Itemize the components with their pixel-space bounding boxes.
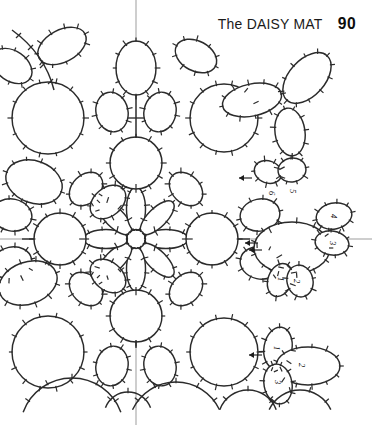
motif-ring-large — [34, 213, 86, 265]
picot-tick — [296, 217, 297, 223]
picot-tick — [127, 238, 128, 244]
edge-oval — [170, 32, 223, 79]
motif-ring-large — [110, 290, 162, 342]
step-number-label-1: 1 — [276, 277, 286, 281]
step-number-label-5: 5 — [288, 189, 298, 193]
picot-tick — [305, 167, 310, 168]
motif-ring — [140, 89, 180, 135]
picot-tick — [136, 230, 142, 231]
picot-tick — [110, 343, 111, 348]
step-number-label-1: 1 — [272, 346, 282, 350]
numbered-ring-5 — [276, 156, 308, 184]
daisy-center-ring — [127, 230, 146, 249]
pattern-page: 123456123 The DAISY MAT 90 — [0, 0, 372, 425]
edge-oval — [272, 106, 308, 158]
picot-tick — [113, 385, 114, 389]
ring-shapes-layer — [0, 20, 354, 413]
picot-tick — [312, 278, 316, 279]
motif-ring-large — [110, 137, 162, 189]
picot-tick — [124, 198, 130, 199]
picot-tick — [2, 45, 3, 49]
picot-tick — [85, 272, 92, 273]
picot-tick — [21, 82, 22, 88]
chain-arc — [132, 382, 219, 410]
picot-tick — [263, 281, 268, 282]
picot-tick — [276, 295, 277, 301]
outer-circle — [190, 318, 258, 386]
step-number-label-3: 3 — [273, 379, 283, 384]
motif-ring — [92, 89, 132, 135]
picot-tick — [264, 156, 265, 163]
daisy-mat-diagram: 123456123 — [0, 0, 372, 425]
outer-circle — [12, 316, 84, 388]
page-title: The DAISY MAT — [218, 15, 323, 33]
picot-tick — [124, 280, 130, 281]
picot-tick — [240, 115, 241, 121]
picot-tick — [304, 129, 309, 130]
arrow-upper-right-icon — [239, 175, 252, 181]
outer-circle — [12, 82, 84, 154]
step-number-label-6: 6 — [267, 191, 277, 196]
motif-ring-large — [186, 213, 238, 265]
picot-tick — [111, 131, 112, 135]
page-number: 90 — [338, 14, 356, 34]
step-number-label-3: 3 — [328, 240, 338, 245]
title-block: The DAISY MAT 90 — [212, 14, 357, 34]
picot-tick — [159, 385, 160, 389]
motif-ring — [116, 41, 156, 95]
